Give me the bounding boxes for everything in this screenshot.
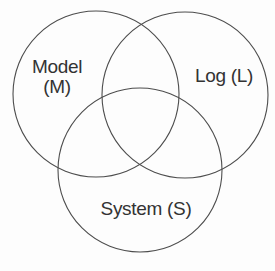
log-set-label: Log (L)	[174, 66, 274, 86]
model-set-label-line1: Model	[17, 57, 97, 77]
model-set-label-line2: (M)	[17, 77, 97, 97]
venn-diagram: Model (M) Log (L) System (S)	[0, 0, 275, 271]
log-circle	[102, 12, 268, 178]
model-set-label: Model (M)	[17, 57, 97, 97]
system-set-label: System (S)	[86, 199, 206, 219]
venn-circles	[0, 0, 275, 271]
system-circle	[58, 88, 222, 252]
